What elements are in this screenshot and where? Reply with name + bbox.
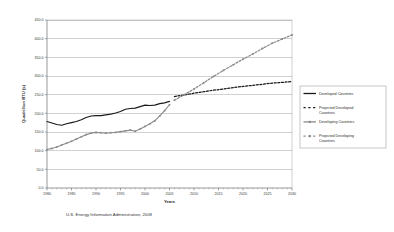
data-point-marker (95, 132, 97, 134)
data-point-marker (46, 149, 48, 151)
data-point-marker (169, 104, 171, 106)
data-point-marker (125, 130, 127, 132)
x-tick-label: 2030 (288, 192, 296, 196)
data-point-marker (129, 129, 131, 131)
data-point-marker (272, 42, 274, 44)
x-tick-label: 1990 (92, 192, 100, 196)
y-tick-label: 0.0 (39, 186, 44, 190)
legend-label: Projected Developing (319, 134, 354, 138)
x-tick-label: 1995 (117, 192, 125, 196)
x-tick-label: 2015 (215, 192, 223, 196)
data-point-marker (232, 64, 234, 66)
legend-label: Projected Developed (319, 106, 353, 110)
chart-figure: 0.050.0100.0150.0200.0250.0300.0350.0400… (0, 0, 394, 232)
data-point-marker (80, 136, 82, 138)
energy-consumption-line-chart: 0.050.0100.0150.0200.0250.0300.0350.0400… (0, 0, 394, 232)
x-tick-label: 2020 (239, 192, 247, 196)
data-point-marker (281, 38, 283, 40)
legend-label: Countries (319, 139, 335, 143)
data-point-marker (139, 128, 141, 130)
y-tick-label: 400.0 (35, 37, 44, 41)
data-point-marker (90, 132, 92, 134)
legend-swatch-marker (309, 135, 311, 137)
y-axis-title: Quadrillion BTU (s) (21, 84, 26, 123)
legend-label: Countries (319, 111, 335, 115)
data-point-marker (71, 140, 73, 142)
source-caption: U.S. Energy Information Administration, … (66, 212, 153, 217)
data-point-marker (159, 115, 161, 117)
data-point-marker (100, 132, 102, 134)
y-tick-label: 50.0 (37, 168, 44, 172)
data-point-marker (213, 76, 215, 78)
data-point-marker (252, 53, 254, 55)
data-point-marker (183, 94, 185, 96)
data-point-marker (85, 134, 87, 136)
y-tick-label: 350.0 (35, 56, 44, 60)
x-tick-label: 2005 (166, 192, 174, 196)
data-point-marker (61, 144, 63, 146)
y-tick-label: 100.0 (35, 149, 44, 153)
data-point-marker (154, 120, 156, 122)
data-point-marker (115, 132, 117, 134)
data-point-marker (105, 132, 107, 134)
data-point-marker (149, 123, 151, 125)
legend-label: Developing Countries (319, 120, 354, 124)
data-point-marker (144, 126, 146, 128)
x-tick-label: 2025 (264, 192, 272, 196)
x-tick-label: 1985 (68, 192, 76, 196)
y-tick-label: 300.0 (35, 74, 44, 78)
data-point-marker (174, 99, 176, 101)
data-point-marker (291, 34, 293, 36)
data-point-marker (76, 138, 78, 140)
legend-label: Developed Countries (319, 92, 354, 96)
x-tick-label: 2000 (141, 192, 149, 196)
data-point-marker (56, 146, 58, 148)
data-point-marker (193, 88, 195, 90)
chart-legend: Developed CountriesProjected DevelopedCo… (300, 86, 386, 148)
data-point-marker (134, 130, 136, 132)
y-tick-label: 200.0 (35, 112, 44, 116)
data-point-marker (203, 82, 205, 84)
data-point-marker (110, 132, 112, 134)
y-tick-label: 150.0 (35, 130, 44, 134)
data-point-marker (66, 142, 68, 144)
data-point-marker (164, 110, 166, 112)
x-tick-label: 1980 (43, 192, 51, 196)
data-point-marker (262, 48, 264, 50)
data-point-marker (120, 131, 122, 133)
data-point-marker (242, 58, 244, 60)
data-point-marker (223, 70, 225, 72)
data-point-marker (51, 148, 53, 150)
x-tick-label: 2010 (190, 192, 198, 196)
x-axis-title: Years (164, 199, 176, 204)
y-tick-label: 450.0 (35, 18, 44, 22)
legend-swatch-marker (309, 121, 311, 123)
y-tick-label: 250.0 (35, 93, 44, 97)
